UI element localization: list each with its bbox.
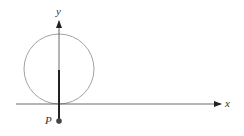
y-axis-label: y xyxy=(55,5,61,17)
x-axis-label: x xyxy=(224,97,230,109)
point-p-dot xyxy=(56,118,62,124)
point-p-label: P xyxy=(44,114,52,126)
diagram-canvas: y x P xyxy=(0,0,244,136)
